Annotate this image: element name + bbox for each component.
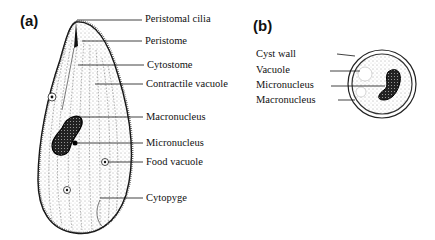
label-micronucleus-a: Micronucleus [146, 138, 204, 149]
label-macronucleus-a: Macronucleus [146, 112, 205, 123]
label-peristome: Peristome [145, 36, 187, 47]
label-micronucleus-b: Micronucleus [256, 80, 314, 91]
label-contractile-vacuole: Contractile vacuole [146, 79, 228, 90]
label-food-vacuole: Food vacuole [146, 157, 203, 168]
label-cytopyge: Cytopyge [146, 193, 187, 204]
label-cytostome: Cytostome [147, 60, 193, 71]
label-vacuole: Vacuole [256, 65, 290, 76]
panel-label-a: (a) [20, 12, 38, 29]
cyst-body [348, 50, 416, 118]
diagram-drawing [0, 0, 435, 240]
label-peristomal-cilia: Peristomal cilia [145, 14, 211, 25]
label-macronucleus-b: Macronucleus [256, 95, 315, 106]
trophozoite-body [38, 21, 132, 233]
label-cyst-wall: Cyst wall [256, 49, 296, 60]
panel-label-b: (b) [253, 17, 272, 34]
